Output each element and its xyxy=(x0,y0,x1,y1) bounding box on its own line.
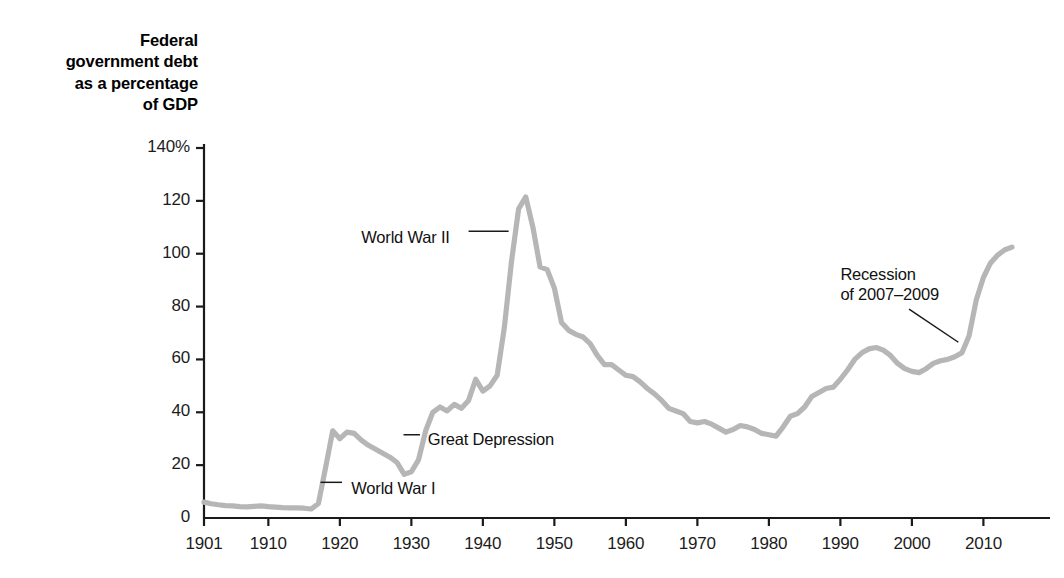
x-axis-tick-label: 1930 xyxy=(371,534,451,554)
x-axis-tick-label: 1950 xyxy=(514,534,594,554)
annotation-recession-2007-2009: Recession of 2007–2009 xyxy=(840,264,939,305)
y-axis-tick-label: 100 xyxy=(162,243,190,263)
x-axis-tick-label: 1980 xyxy=(729,534,809,554)
annotation-great-depression: Great Depression xyxy=(428,429,554,450)
x-axis-tick-label: 1990 xyxy=(800,534,880,554)
x-axis-tick-label: 2000 xyxy=(872,534,952,554)
x-axis-tick-label: 1960 xyxy=(586,534,666,554)
x-axis-tick-label: 1970 xyxy=(657,534,737,554)
annotation-world-war-i: World War I xyxy=(351,478,435,499)
y-axis-tick-label: 120 xyxy=(162,190,190,210)
annotation-world-war-ii: World War II xyxy=(361,227,449,248)
chart-figure: Federal government debt as a percentage … xyxy=(0,0,1064,578)
y-axis-tick-label: 40 xyxy=(171,401,190,421)
y-axis-title: Federal government debt as a percentage … xyxy=(8,30,198,116)
x-axis-tick-label: 1920 xyxy=(300,534,380,554)
y-axis-tick-label: 80 xyxy=(171,296,190,316)
x-axis-tick-label: 1940 xyxy=(443,534,523,554)
x-axis-tick-label: 1910 xyxy=(228,534,308,554)
annotation-leader-line-recession-2007-2009 xyxy=(909,309,958,342)
y-axis-tick-label: 60 xyxy=(171,348,190,368)
y-axis-tick-label: 20 xyxy=(171,454,190,474)
y-axis-tick-label: 0 xyxy=(181,507,190,527)
x-axis-tick-label: 2010 xyxy=(943,534,1023,554)
y-axis-tick-label: 140% xyxy=(147,137,190,157)
debt-series-line xyxy=(204,197,1012,509)
